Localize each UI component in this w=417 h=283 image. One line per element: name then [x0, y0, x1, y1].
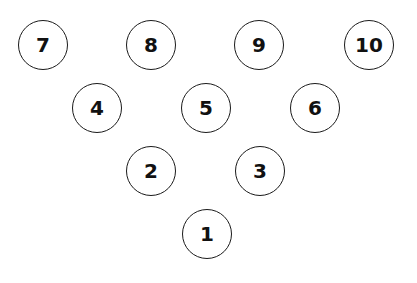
- pin-7: 7: [18, 20, 68, 70]
- pin-5: 5: [181, 83, 231, 133]
- pin-6: 6: [290, 83, 340, 133]
- pin-2: 2: [126, 146, 176, 196]
- pin-8: 8: [126, 20, 176, 70]
- pin-3: 3: [235, 146, 285, 196]
- pin-4: 4: [72, 83, 122, 133]
- pin-9: 9: [234, 20, 284, 70]
- pin-10: 10: [344, 20, 394, 70]
- pin-1: 1: [182, 209, 232, 259]
